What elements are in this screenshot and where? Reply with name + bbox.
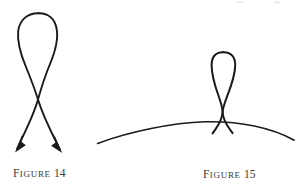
figure-illustration-canvas [0,0,296,187]
figure-15-drawing [98,52,295,143]
figure-14-caption-numeral: 14 [54,167,66,179]
figure-15-baseline-arc [98,122,295,144]
figure-15-caption-rest: IGURE [210,170,241,180]
figure-15-caption: FIGURE 15 [203,165,256,181]
figure-14-right-arrowhead [51,135,62,153]
figure-14-right-strand [17,13,57,149]
figure-14-left-strand [18,13,60,149]
figure-page: FIGURE 14 FIGURE 15 [0,0,296,187]
scan-artifact [236,1,243,3]
figure-14-caption-rest: IGURE [20,169,51,179]
figure-14-left-arrowhead [15,134,26,153]
figure-14-caption: FIGURE 14 [13,164,66,180]
figure-14-caption-lead: F [13,167,20,179]
figure-15-caption-numeral: 15 [244,168,256,180]
figure-14-drawing [15,13,62,153]
figure-15-caption-lead: F [203,168,210,180]
scan-artifact [274,1,280,4]
